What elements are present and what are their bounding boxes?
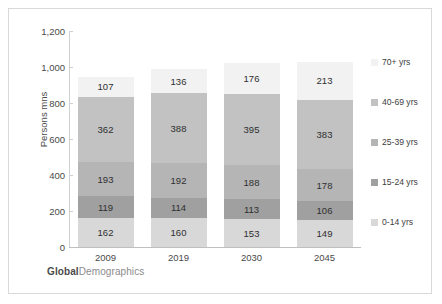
bar-segment[interactable]: 136 — [151, 69, 207, 93]
bar-stack[interactable]: 107362193119162 — [78, 77, 134, 247]
y-axis-tick-label: 1,000 — [21, 62, 65, 73]
legend-item-label: 70+ yrs — [382, 57, 410, 67]
brand-name-primary: Global — [47, 266, 79, 277]
legend-color-swatch — [371, 139, 378, 146]
bar-segment[interactable]: 160 — [151, 218, 207, 247]
legend-color-swatch — [371, 99, 378, 106]
legend-color-swatch — [371, 219, 378, 226]
bar-segment[interactable]: 176 — [224, 63, 280, 95]
x-axis-tick-label: 2045 — [288, 252, 361, 263]
bar-segment[interactable]: 119 — [78, 196, 134, 217]
bar-segment[interactable]: 162 — [78, 218, 134, 247]
legend-item-label: 15-24 yrs — [382, 177, 418, 187]
bar-segment[interactable]: 114 — [151, 198, 207, 219]
brand-footer: GlobalDemographics — [47, 266, 144, 277]
chart-frame: 02004006008001,0001,200 Persons mns 1073… — [8, 8, 432, 294]
brand-name-secondary: Demographics — [79, 266, 145, 277]
bar-segment[interactable]: 388 — [151, 93, 207, 163]
bar-segment[interactable]: 213 — [297, 62, 353, 100]
legend-item[interactable]: 0-14 yrs — [371, 217, 413, 227]
legend-color-swatch — [371, 59, 378, 66]
legend-item[interactable]: 70+ yrs — [371, 57, 410, 67]
bar-segment[interactable]: 153 — [224, 219, 280, 247]
y-axis-tick-label: 400 — [21, 170, 65, 181]
bar-segment[interactable]: 395 — [224, 94, 280, 165]
y-axis-title: Persons mns — [38, 80, 49, 160]
plot-area: 1073621931191621363881921141601763951881… — [69, 31, 361, 247]
legend-item[interactable]: 25-39 yrs — [371, 137, 418, 147]
legend-color-swatch — [371, 179, 378, 186]
bar-segment[interactable]: 188 — [224, 165, 280, 199]
bar-segment[interactable]: 107 — [78, 77, 134, 96]
bar-segment[interactable]: 362 — [78, 97, 134, 162]
x-axis-line — [69, 247, 361, 248]
bar-stack[interactable]: 136388192114160 — [151, 69, 207, 247]
bar-segment[interactable]: 383 — [297, 100, 353, 169]
y-axis-tick-label: 1,200 — [21, 26, 65, 37]
bar-segment[interactable]: 193 — [78, 162, 134, 197]
y-axis-tick-label: 200 — [21, 206, 65, 217]
bar-segment[interactable]: 113 — [224, 199, 280, 219]
x-axis-tick-label: 2030 — [215, 252, 288, 263]
x-axis-tick-label: 2019 — [142, 252, 215, 263]
bar-segment[interactable]: 149 — [297, 220, 353, 247]
x-axis-tick-label: 2009 — [69, 252, 142, 263]
legend-item[interactable]: 40-69 yrs — [371, 97, 418, 107]
bar-segment[interactable]: 192 — [151, 163, 207, 198]
legend-item-label: 25-39 yrs — [382, 137, 418, 147]
bar-stack[interactable]: 213383178106149 — [297, 62, 353, 247]
bar-stack[interactable]: 176395188113153 — [224, 63, 280, 247]
chart-legend: 70+ yrs40-69 yrs25-39 yrs15-24 yrs0-14 y… — [371, 57, 435, 249]
bar-segment[interactable]: 106 — [297, 201, 353, 220]
y-axis-tick-label: 0 — [21, 242, 65, 253]
legend-item-label: 40-69 yrs — [382, 97, 418, 107]
legend-item-label: 0-14 yrs — [382, 217, 413, 227]
bar-segment[interactable]: 178 — [297, 169, 353, 201]
legend-item[interactable]: 15-24 yrs — [371, 177, 418, 187]
